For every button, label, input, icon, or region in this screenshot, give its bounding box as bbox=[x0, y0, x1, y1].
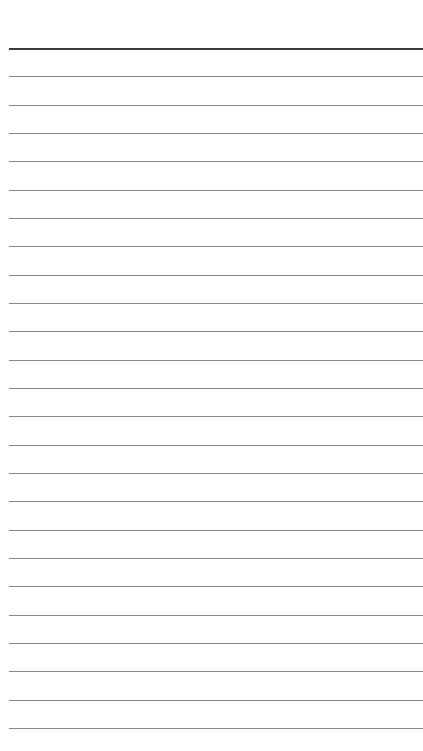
rule-line bbox=[9, 331, 423, 332]
rule-line bbox=[9, 445, 423, 446]
rule-line bbox=[9, 133, 423, 134]
rule-line bbox=[9, 530, 423, 531]
rule-line bbox=[9, 360, 423, 361]
rule-line bbox=[9, 246, 423, 247]
rule-line bbox=[9, 416, 423, 417]
rule-line bbox=[9, 105, 423, 106]
rule-line bbox=[9, 501, 423, 502]
rule-line bbox=[9, 218, 423, 219]
rule-line bbox=[9, 558, 423, 559]
rule-line bbox=[9, 700, 423, 701]
rule-line bbox=[9, 671, 423, 672]
rule-line bbox=[9, 190, 423, 191]
rule-line bbox=[9, 643, 423, 644]
rule-line bbox=[9, 473, 423, 474]
lined-paper-page bbox=[0, 0, 423, 751]
rule-line bbox=[9, 586, 423, 587]
rule-line bbox=[9, 161, 423, 162]
rule-line bbox=[9, 275, 423, 276]
rule-line bbox=[9, 728, 423, 729]
rule-line bbox=[9, 615, 423, 616]
rule-line bbox=[9, 76, 423, 77]
rule-line bbox=[9, 303, 423, 304]
header-rule-line bbox=[9, 48, 423, 50]
rule-line bbox=[9, 388, 423, 389]
